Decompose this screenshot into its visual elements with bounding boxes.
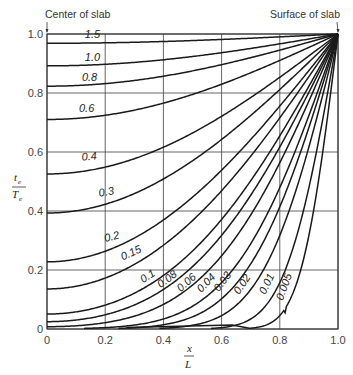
- curve-label: 0.15: [119, 242, 144, 262]
- x-tick-label: 1.0: [330, 334, 345, 346]
- x-axis-label: x L: [184, 342, 194, 370]
- svg-text:e: e: [18, 178, 21, 186]
- curve-label: 0.01: [256, 271, 276, 296]
- curve-label: 0.2: [103, 229, 121, 244]
- curve-label: 0.6: [79, 102, 95, 114]
- x-label-denominator: L: [184, 358, 191, 370]
- y-tick-label: 1.0: [28, 28, 43, 40]
- y-tick-label: 0.6: [28, 146, 43, 158]
- curve-label: 0.8: [82, 71, 98, 83]
- curve-label: 0.4: [81, 149, 97, 163]
- curve-label: 1.0: [85, 51, 101, 63]
- y-tick-label: 0: [37, 323, 43, 335]
- y-label-denominator: T: [12, 188, 19, 200]
- curve-label: 0.02: [231, 272, 253, 296]
- curve-label: 1.5: [85, 28, 101, 40]
- surface-of-slab-label: Surface of slab: [270, 8, 340, 20]
- arrowhead-icon: [46, 29, 49, 33]
- x-tick-label: 0: [44, 334, 50, 346]
- arrowhead-icon: [337, 29, 340, 33]
- curve-0.2: [47, 34, 338, 262]
- y-tick-label: 0.2: [28, 264, 43, 276]
- x-tick-label: 0.8: [272, 334, 287, 346]
- svg-text:e: e: [19, 195, 22, 203]
- y-tick-label: 0.8: [28, 87, 43, 99]
- x-label-numerator: x: [186, 342, 192, 354]
- curve-label: 0.3: [98, 184, 116, 199]
- chart: 1.51.00.80.60.40.30.20.150.10.080.060.04…: [0, 0, 353, 375]
- x-tick-label: 0.2: [98, 334, 113, 346]
- y-tick-label: 0.4: [28, 205, 43, 217]
- tick-labels: 00.20.40.60.81.000.20.40.60.81.0: [28, 28, 346, 346]
- x-tick-label: 0.4: [156, 334, 171, 346]
- x-tick-label: 0.6: [214, 334, 229, 346]
- center-of-slab-label: Center of slab: [45, 8, 111, 20]
- y-axis-label: t e T e: [12, 171, 26, 203]
